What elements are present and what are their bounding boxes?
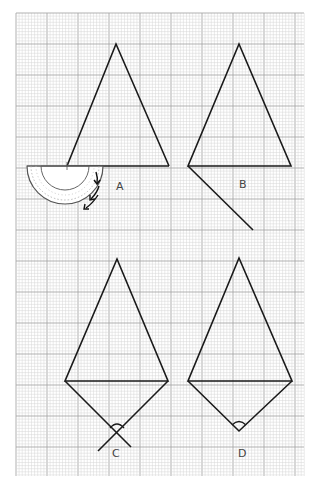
geometry-figure: A B C D <box>0 0 315 488</box>
label-b: B <box>239 178 247 191</box>
label-a: A <box>116 180 124 193</box>
triangle-b <box>188 44 291 166</box>
label-c: C <box>112 447 120 460</box>
label-d: D <box>238 447 246 460</box>
graph-paper-grid <box>16 13 304 476</box>
triangle-a <box>67 44 169 166</box>
